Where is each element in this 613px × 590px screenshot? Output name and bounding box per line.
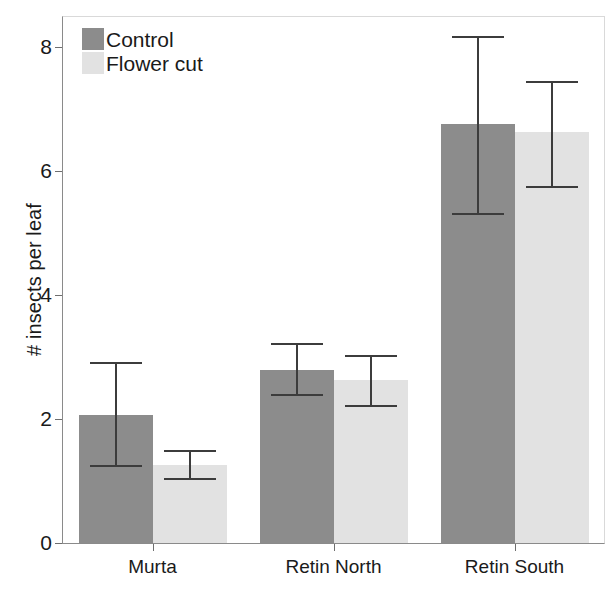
x-tick-mark xyxy=(334,544,335,551)
plot-area xyxy=(62,16,605,544)
x-tick-label: Retin South xyxy=(465,556,564,578)
x-tick-mark xyxy=(153,544,154,551)
legend-item: Flower cut xyxy=(82,51,203,75)
legend: ControlFlower cut xyxy=(82,27,203,75)
x-tick-mark xyxy=(515,544,516,551)
y-tick-mark xyxy=(55,419,62,420)
y-tick-label: 6 xyxy=(26,160,52,181)
x-tick-label: Murta xyxy=(128,556,177,578)
y-tick-label: 4 xyxy=(26,284,52,305)
y-tick-label: 0 xyxy=(26,532,52,553)
legend-item: Control xyxy=(82,27,203,51)
y-tick-mark xyxy=(55,295,62,296)
y-tick-label: 8 xyxy=(26,36,52,57)
bar-chart-figure: # insects per leaf 02468 ControlFlower c… xyxy=(0,0,613,590)
y-tick-mark xyxy=(55,47,62,48)
y-tick-mark xyxy=(55,543,62,544)
x-tick-label: Retin North xyxy=(285,556,381,578)
legend-label: Flower cut xyxy=(106,53,203,74)
legend-label: Control xyxy=(106,29,174,50)
y-tick-mark xyxy=(55,171,62,172)
y-tick-label: 2 xyxy=(26,408,52,429)
y-axis-tick-labels: 02468 xyxy=(22,0,52,590)
legend-swatch-icon xyxy=(82,28,104,50)
legend-swatch-icon xyxy=(82,52,104,74)
